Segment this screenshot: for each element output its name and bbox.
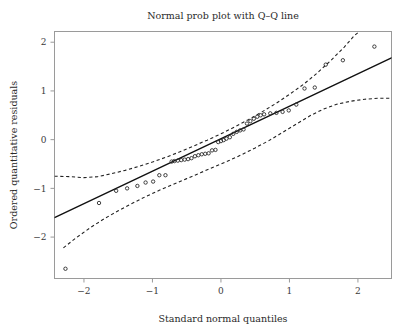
- data-point: [190, 156, 193, 159]
- data-point: [193, 155, 196, 158]
- qq-reference-line: [55, 58, 392, 218]
- y-axis-label: Ordered quantitative residuals: [8, 81, 19, 229]
- x-tick-label: 2: [355, 286, 361, 296]
- data-point: [262, 113, 265, 116]
- data-point: [180, 158, 183, 161]
- data-point: [228, 136, 231, 139]
- y-axis-tick-labels: 210−1−2: [33, 37, 47, 242]
- x-tick-label: −1: [146, 286, 159, 296]
- data-point: [281, 110, 284, 113]
- y-tick-label: −2: [33, 232, 46, 242]
- data-point: [207, 152, 210, 155]
- data-point: [303, 87, 306, 90]
- data-point: [151, 180, 154, 183]
- data-point: [245, 122, 248, 125]
- data-point-group: [64, 45, 376, 271]
- y-tick-label: −1: [33, 184, 46, 194]
- data-point: [158, 174, 161, 177]
- data-point: [210, 149, 213, 152]
- qq-plot-canvas: Normal prob plot with Q–Q line Ordered q…: [0, 0, 407, 328]
- data-point: [259, 114, 262, 117]
- data-point: [341, 59, 344, 62]
- data-point: [186, 157, 189, 160]
- x-tick-label: 1: [287, 286, 293, 296]
- data-point: [183, 158, 186, 161]
- y-tick-label: 2: [41, 37, 47, 47]
- data-point: [144, 181, 147, 184]
- data-point: [324, 63, 327, 66]
- data-point: [125, 187, 128, 190]
- plot-frame: [55, 32, 392, 279]
- y-tick-label: 0: [41, 135, 47, 145]
- y-tick-label: 1: [41, 86, 47, 96]
- upper-confidence-band: [55, 32, 360, 178]
- data-point: [114, 189, 117, 192]
- data-point: [287, 109, 290, 112]
- data-point: [252, 117, 255, 120]
- data-point: [164, 174, 167, 177]
- x-axis-tick-labels: −2−1012: [77, 286, 360, 296]
- y-axis-tick-marks: [51, 42, 55, 237]
- x-tick-label: −2: [77, 286, 90, 296]
- data-point: [203, 152, 206, 155]
- data-point: [214, 148, 217, 151]
- data-point: [313, 86, 316, 89]
- data-point: [249, 119, 252, 122]
- data-point: [136, 184, 139, 187]
- chart-title: Normal prob plot with Q–Q line: [147, 10, 299, 21]
- normal-probability-plot-figure: Normal prob plot with Q–Q line Ordered q…: [0, 0, 407, 328]
- data-point: [373, 45, 376, 48]
- x-tick-label: 0: [218, 286, 224, 296]
- x-axis-tick-marks: [84, 279, 358, 283]
- data-point: [64, 267, 67, 270]
- x-axis-label: Standard normal quantiles: [159, 313, 288, 324]
- data-point: [197, 154, 200, 157]
- data-point: [97, 201, 100, 204]
- data-point: [256, 115, 259, 118]
- data-point: [200, 153, 203, 156]
